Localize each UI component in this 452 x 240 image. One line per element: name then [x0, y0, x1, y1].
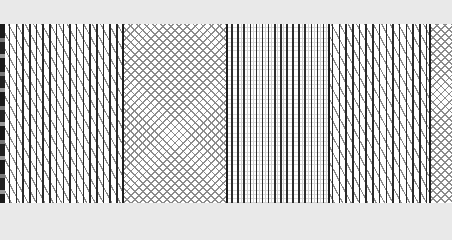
pattern-band — [0, 24, 452, 203]
vertical-diagonal-hatch-swatch-1 — [5, 24, 123, 203]
swatch-divider — [122, 24, 124, 203]
swatch-divider — [429, 24, 431, 203]
diamond-crosshatch-swatch-1 — [123, 24, 227, 203]
vertical-grid-swatch — [227, 24, 328, 203]
diamond-crosshatch-swatch-2 — [430, 24, 452, 203]
swatch-divider — [226, 24, 228, 203]
swatch-divider — [328, 24, 330, 203]
vertical-diagonal-hatch-swatch-2 — [328, 24, 430, 203]
